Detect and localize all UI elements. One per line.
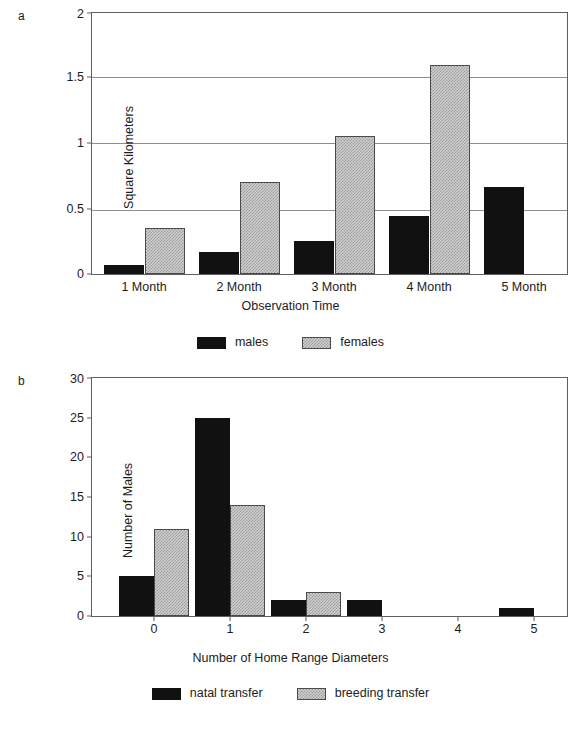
ytick-label-a-0-5: 0.5 — [67, 203, 92, 216]
panel-a-plot-area: 0 0.5 1 1.5 2 1 Month 2 Month 3 Month — [91, 12, 568, 275]
bar-b-natal-3 — [347, 600, 382, 616]
ytick-label-a-2: 2 — [77, 8, 92, 21]
bar-a-males-4-month — [389, 216, 429, 274]
xtickmark-b-3 — [382, 616, 383, 621]
xtick-label-b-3: 3 — [379, 623, 386, 636]
xtick-label-b-0: 0 — [151, 623, 158, 636]
bar-a-males-3-month — [294, 241, 334, 274]
xtick-label-b-1: 1 — [227, 623, 234, 636]
panel-a-legend: males females — [0, 336, 581, 349]
legend-label-breeding-transfer: breeding transfer — [335, 687, 430, 700]
ytick-label-b-25: 25 — [70, 411, 92, 424]
ytick-label-b-5: 5 — [77, 570, 92, 583]
bar-b-breeding-2 — [306, 592, 341, 616]
xtickmark-b-5 — [534, 616, 535, 621]
panel-a-y-axis-title: Square Kilometers — [123, 98, 136, 218]
bar-b-natal-1 — [195, 418, 230, 616]
legend-item-natal-transfer: natal transfer — [152, 687, 263, 700]
bar-b-breeding-1 — [230, 505, 265, 616]
xtick-label-b-2: 2 — [303, 623, 310, 636]
xtickmark-b-2 — [306, 616, 307, 621]
bar-a-females-1-month — [145, 228, 185, 274]
bar-a-males-2-month — [199, 252, 239, 274]
gridline-a-1-5 — [92, 77, 567, 78]
panel-a-x-axis-title: Observation Time — [0, 300, 581, 313]
legend-label-males: males — [235, 336, 268, 349]
ytick-label-a-1-5: 1.5 — [67, 71, 92, 84]
bar-b-natal-5 — [499, 608, 534, 616]
legend-label-natal-transfer: natal transfer — [190, 687, 263, 700]
bar-b-natal-2 — [271, 600, 306, 616]
bar-a-males-5-month — [484, 187, 524, 274]
panel-b-legend: natal transfer breeding transfer — [0, 687, 581, 700]
bar-a-males-1-month — [104, 265, 144, 274]
xtick-label-b-4: 4 — [455, 623, 462, 636]
xtickmark-b-0 — [154, 616, 155, 621]
xtickmark-b-1 — [230, 616, 231, 621]
bar-a-females-4-month — [430, 65, 470, 274]
panel-b: b 0 5 10 15 20 25 30 — [0, 365, 581, 729]
panel-b-y-axis-title: Number of Males — [122, 451, 135, 571]
legend-label-females: females — [340, 336, 384, 349]
panel-a: a 0 0.5 1 1.5 2 — [0, 0, 581, 365]
bar-b-natal-0 — [119, 576, 154, 616]
bar-a-females-2-month — [240, 182, 280, 274]
xtick-label-a-5-month: 5 Month — [501, 281, 546, 294]
gridline-a-1 — [92, 143, 567, 144]
legend-item-females: females — [302, 336, 384, 349]
legend-item-males: males — [197, 336, 268, 349]
panel-a-label: a — [18, 10, 25, 22]
legend-item-breeding-transfer: breeding transfer — [297, 687, 430, 700]
legend-swatch-males-icon — [197, 337, 226, 349]
ytick-label-a-0: 0 — [77, 268, 92, 281]
xtick-label-a-2-month: 2 Month — [216, 281, 261, 294]
figure-two-panel-bar-charts: a 0 0.5 1 1.5 2 — [0, 0, 581, 729]
xtick-label-a-3-month: 3 Month — [311, 281, 356, 294]
xtick-label-a-4-month: 4 Month — [406, 281, 451, 294]
ytick-label-a-1: 1 — [77, 137, 92, 150]
ytick-label-b-30: 30 — [70, 373, 92, 386]
panel-b-plot-area: 0 5 10 15 20 25 30 — [91, 377, 568, 617]
legend-swatch-breeding-transfer-icon — [297, 688, 326, 700]
xtickmark-b-4 — [458, 616, 459, 621]
legend-swatch-natal-transfer-icon — [152, 688, 181, 700]
bar-a-females-3-month — [335, 136, 375, 274]
bar-b-breeding-0 — [154, 529, 189, 616]
xtick-label-a-1-month: 1 Month — [121, 281, 166, 294]
panel-b-x-axis-title: Number of Home Range Diameters — [0, 652, 581, 665]
panel-b-label: b — [18, 375, 25, 387]
ytick-label-b-10: 10 — [70, 530, 92, 543]
xtick-label-b-5: 5 — [531, 623, 538, 636]
ytick-label-b-20: 20 — [70, 451, 92, 464]
ytick-label-b-0: 0 — [77, 610, 92, 623]
legend-swatch-females-icon — [302, 337, 331, 349]
ytick-label-b-15: 15 — [70, 491, 92, 504]
